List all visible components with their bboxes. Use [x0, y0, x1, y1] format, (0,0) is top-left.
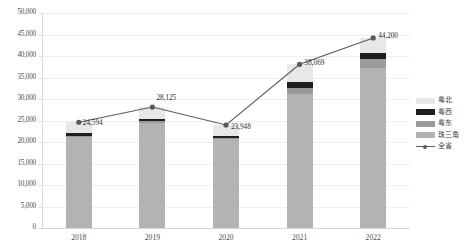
chart-container: 05,00010,00015,00020,00025,00030,00035,0…: [0, 0, 470, 252]
y-axis-tick-label: 0: [0, 224, 36, 231]
y-axis-tick-label: 40,000: [0, 52, 36, 59]
legend-swatch-icon: [416, 121, 435, 127]
data-point-label: 28,125: [156, 95, 176, 102]
legend-swatch-icon: [416, 132, 435, 138]
legend-swatch-icon: [416, 98, 435, 104]
x-axis-tick-label: 2022: [343, 234, 403, 242]
line-marker[interactable]: [371, 35, 376, 40]
legend-swatch-icon: [416, 109, 435, 115]
legend-item-珠三角[interactable]: 珠三角: [416, 130, 468, 142]
legend-label: 珠三角: [438, 132, 459, 139]
y-axis-tick-label: 5,000: [0, 203, 36, 210]
legend-item-粤东[interactable]: 粤东: [416, 118, 468, 130]
legend-label: 全省: [438, 143, 452, 150]
line-path-全省: [79, 38, 373, 125]
data-point-label: 23,948: [231, 124, 251, 131]
line-marker[interactable]: [150, 104, 155, 109]
line-marker[interactable]: [223, 122, 228, 127]
data-point-label: 38,069: [305, 60, 325, 67]
line-marker[interactable]: [297, 62, 302, 67]
chart-legend: 粤北粤西粤东珠三角全省: [416, 95, 468, 153]
y-axis-tick-label: 50,000: [0, 9, 36, 16]
legend-label: 粤东: [438, 120, 452, 127]
legend-line-marker-icon: [416, 144, 435, 150]
y-axis-tick-label: 35,000: [0, 74, 36, 81]
line-marker[interactable]: [76, 120, 81, 125]
y-axis-tick-label: 30,000: [0, 95, 36, 102]
x-axis-line: [42, 228, 410, 229]
y-axis-tick-label: 45,000: [0, 31, 36, 38]
x-axis-tick-label: 2018: [49, 234, 109, 242]
x-axis-tick-label: 2019: [122, 234, 182, 242]
legend-item-粤西[interactable]: 粤西: [416, 107, 468, 119]
legend-item-粤北[interactable]: 粤北: [416, 95, 468, 107]
x-axis-tick-label: 2021: [270, 234, 330, 242]
data-point-label: 44,200: [378, 33, 398, 40]
y-axis-tick-label: 25,000: [0, 117, 36, 124]
y-axis-tick-label: 10,000: [0, 181, 36, 188]
y-axis-tick-label: 15,000: [0, 160, 36, 167]
legend-label: 粤北: [438, 97, 452, 104]
x-axis-tick-label: 2020: [196, 234, 256, 242]
legend-label: 粤西: [438, 109, 452, 116]
y-axis: 05,00010,00015,00020,00025,00030,00035,0…: [0, 0, 40, 252]
plot-area: 24,59428,12523,94838,06944,200: [42, 13, 410, 228]
y-axis-tick-label: 20,000: [0, 138, 36, 145]
legend-item-全省[interactable]: 全省: [416, 141, 468, 153]
data-point-label: 24,594: [83, 120, 103, 127]
